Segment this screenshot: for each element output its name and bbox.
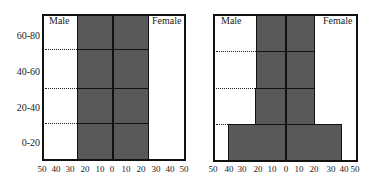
y-label-20-40: 20-40 (10, 102, 40, 113)
right-x-tick: 10 (295, 164, 304, 174)
right-x-tick: 50 (351, 164, 360, 174)
left-bar-male-20-40 (77, 88, 113, 124)
left-x-tick: 20 (137, 164, 146, 174)
left-bar-female-40-60 (113, 49, 149, 89)
left-bar-male-40-60 (77, 49, 113, 89)
right-dotted-gridline (216, 124, 228, 125)
left-pyramid-chart: Male Female 60-80 40-60 20-40 0-20 50 40… (0, 0, 190, 184)
left-x-tick: 50 (38, 164, 47, 174)
left-bar-male-60-80 (77, 15, 113, 50)
right-legend-male: Male (221, 15, 242, 26)
left-center-axis (112, 15, 114, 160)
left-dotted-gridline (45, 49, 77, 50)
left-bar-male-0-20 (77, 123, 113, 160)
right-center-axis (285, 15, 287, 161)
right-legend-female: Female (323, 15, 352, 26)
left-legend-male: Male (49, 15, 70, 26)
right-x-tick: 40 (340, 164, 349, 174)
right-bar-male-0-20 (228, 124, 286, 161)
y-label-60-80: 60-80 (10, 30, 40, 41)
left-x-tick: 40 (166, 164, 175, 174)
left-x-tick: 10 (96, 164, 105, 174)
right-bar-female-0-20 (286, 124, 342, 161)
right-x-tick: 40 (225, 164, 234, 174)
right-x-tick: 50 (209, 164, 218, 174)
left-x-tick: 30 (152, 164, 161, 174)
right-x-tick: 30 (327, 164, 336, 174)
right-x-tick: 20 (310, 164, 319, 174)
right-pyramid-chart: Male Female 50 40 30 20 10 0 10 20 30 40… (190, 0, 375, 184)
y-label-40-60: 40-60 (10, 66, 40, 77)
left-x-tick: 30 (66, 164, 75, 174)
right-bar-female-40-60 (286, 51, 315, 89)
left-x-tick: 20 (81, 164, 90, 174)
y-label-0-20: 0-20 (10, 137, 40, 148)
left-legend-female: Female (152, 15, 181, 26)
right-dotted-gridline (216, 51, 256, 52)
left-dotted-gridline (45, 88, 77, 89)
left-bar-female-0-20 (113, 123, 149, 160)
right-bar-female-20-40 (286, 88, 315, 125)
left-dotted-gridline (45, 123, 77, 124)
left-bar-female-20-40 (113, 88, 149, 124)
left-bar-female-60-80 (113, 15, 149, 50)
left-x-tick: 0 (110, 164, 115, 174)
right-x-tick: 10 (268, 164, 277, 174)
right-dotted-gridline (216, 88, 255, 89)
left-x-tick: 40 (52, 164, 61, 174)
right-bar-female-60-80 (286, 15, 315, 52)
left-x-tick: 10 (122, 164, 131, 174)
right-x-tick: 20 (254, 164, 263, 174)
right-x-tick: 30 (238, 164, 247, 174)
right-x-tick: 0 (284, 164, 289, 174)
right-bar-male-20-40 (255, 88, 286, 125)
right-bar-male-40-60 (256, 51, 286, 89)
left-x-tick: 50 (180, 164, 189, 174)
right-bar-male-60-80 (256, 15, 286, 52)
